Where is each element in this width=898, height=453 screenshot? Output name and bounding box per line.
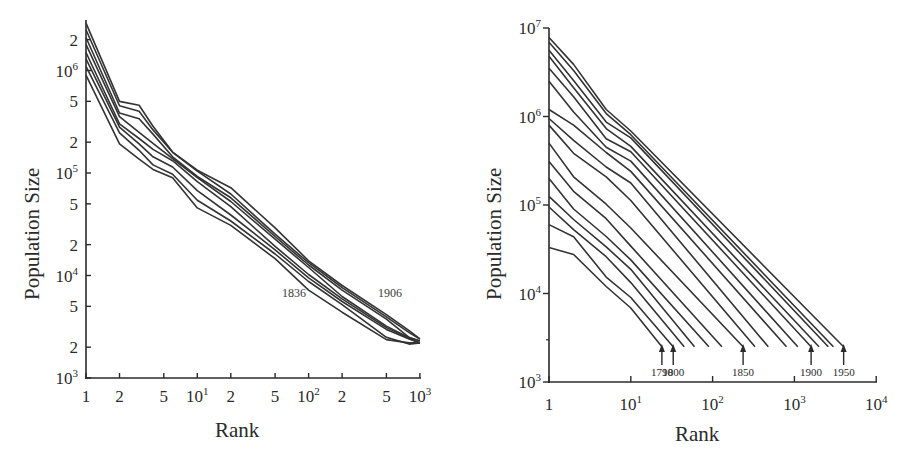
year-arrow-label-1850: 1850 bbox=[732, 366, 755, 378]
tick-label: 2 bbox=[115, 387, 124, 406]
series-line-1886 bbox=[86, 38, 420, 341]
series-line-1876 bbox=[86, 44, 420, 341]
tick-label: 104 bbox=[56, 265, 79, 286]
tick-label: 103 bbox=[56, 367, 79, 388]
year-arrow-label-1950: 1950 bbox=[833, 366, 856, 378]
left-curves bbox=[86, 23, 420, 344]
tick-label: 5 bbox=[70, 195, 79, 214]
left-annotation-1836: 1836 bbox=[282, 286, 306, 300]
tick-label: 103 bbox=[519, 371, 542, 392]
tick-label: 101 bbox=[186, 385, 209, 406]
left-chart-panel: 1032510425105251062 1251012510225103 183… bbox=[0, 0, 449, 453]
series-line-1856 bbox=[86, 59, 420, 343]
series-line-1920 bbox=[549, 50, 828, 347]
tick-label: 107 bbox=[519, 17, 542, 38]
tick-label: 5 bbox=[70, 297, 79, 316]
tick-label: 106 bbox=[519, 106, 542, 127]
tick-label: 102 bbox=[297, 385, 320, 406]
series-line-1896 bbox=[86, 30, 420, 339]
tick-label: 2 bbox=[70, 31, 79, 50]
series-line-1906 bbox=[86, 23, 420, 339]
left-x-axis-title: Rank bbox=[215, 418, 259, 443]
tick-label: 104 bbox=[519, 283, 542, 304]
tick-label: 1 bbox=[545, 395, 554, 414]
tick-label: 5 bbox=[70, 92, 79, 111]
tick-label: 1 bbox=[82, 387, 91, 406]
tick-label: 2 bbox=[227, 387, 236, 406]
tick-label: 2 bbox=[70, 133, 79, 152]
tick-label: 105 bbox=[56, 162, 79, 183]
year-arrow-label-1900: 1900 bbox=[800, 366, 823, 378]
right-chart-panel: 103104105106107 1101102103104 1790180018… bbox=[449, 0, 898, 453]
tick-label: 5 bbox=[160, 387, 169, 406]
tick-label: 102 bbox=[701, 393, 724, 414]
series-line-1866 bbox=[86, 53, 420, 343]
tick-label: 106 bbox=[56, 60, 79, 81]
series-line-1836 bbox=[86, 75, 420, 343]
right-y-axis-title: Population Size bbox=[482, 168, 507, 300]
series-line-1810 bbox=[549, 207, 684, 347]
series-line-1950 bbox=[549, 38, 844, 347]
series-line-1900 bbox=[549, 68, 811, 347]
right-curves bbox=[549, 38, 844, 347]
tick-label: 2 bbox=[338, 387, 347, 406]
tick-label: 104 bbox=[865, 393, 888, 414]
tick-label: 103 bbox=[409, 385, 432, 406]
tick-label: 101 bbox=[620, 393, 643, 414]
year-arrow-label-1800: 1800 bbox=[662, 366, 685, 378]
right-y-ticks: 103104105106107 bbox=[519, 17, 550, 392]
right-chart-plot: 103104105106107 1101102103104 1790180018… bbox=[449, 0, 898, 453]
tick-label: 2 bbox=[70, 236, 79, 255]
tick-label: 5 bbox=[271, 387, 280, 406]
left-chart-plot: 1032510425105251062 1251012510225103 183… bbox=[0, 0, 449, 453]
series-line-1846 bbox=[86, 66, 420, 344]
left-annotation-1906: 1906 bbox=[378, 286, 402, 300]
right-x-axis-title: Rank bbox=[675, 422, 719, 447]
tick-label: 5 bbox=[382, 387, 391, 406]
series-line-1930 bbox=[549, 42, 833, 347]
tick-label: 2 bbox=[70, 338, 79, 357]
tick-label: 103 bbox=[783, 393, 806, 414]
right-year-arrows: 17901800185019001950 bbox=[651, 344, 855, 378]
left-y-axis-title: Population Size bbox=[20, 168, 45, 300]
tick-label: 105 bbox=[519, 194, 542, 215]
